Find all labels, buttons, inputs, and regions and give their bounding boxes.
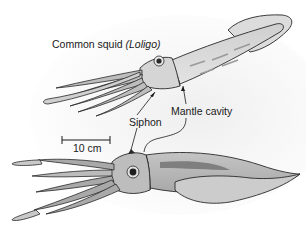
mantle-cavity-label: Mantle cavity [171,106,232,117]
species-common-name: Common squid [52,38,126,50]
siphon-label: Siphon [129,117,162,128]
scale-bar-label: 10 cm [73,143,102,154]
species-title: Common squid (Loligo) [52,39,161,50]
squid-illustration [0,0,306,226]
species-genus: (Loligo) [126,38,161,50]
